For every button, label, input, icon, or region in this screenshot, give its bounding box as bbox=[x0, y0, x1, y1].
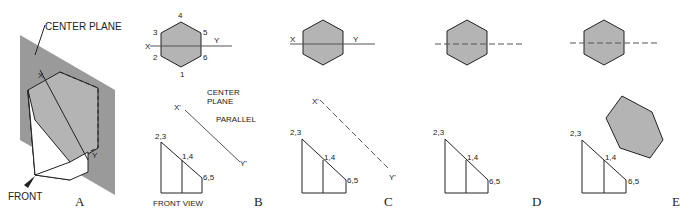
svg-text:FRONT: FRONT bbox=[8, 191, 42, 202]
label-center-plane: CENTER PLANE bbox=[45, 21, 122, 32]
svg-text:2,3: 2,3 bbox=[433, 128, 445, 137]
auxiliary-view-diagram: CENTER PLANE X Y FRONT A X Y 4 3 5 2 6 1… bbox=[0, 0, 691, 223]
svg-text:PLANE: PLANE bbox=[207, 97, 233, 106]
svg-text:6: 6 bbox=[203, 53, 208, 62]
svg-text:Y: Y bbox=[214, 36, 220, 45]
svg-text:X: X bbox=[145, 42, 151, 51]
svg-text:1,4: 1,4 bbox=[605, 153, 617, 162]
svg-text:3: 3 bbox=[153, 28, 158, 37]
svg-text:D: D bbox=[532, 194, 541, 209]
svg-text:1,4: 1,4 bbox=[467, 153, 479, 162]
svg-text:Y': Y' bbox=[240, 159, 247, 168]
svg-text:Y: Y bbox=[353, 35, 359, 44]
svg-text:6,5: 6,5 bbox=[628, 177, 640, 186]
svg-text:1,4: 1,4 bbox=[324, 153, 336, 162]
svg-text:E: E bbox=[672, 194, 680, 209]
svg-text:2: 2 bbox=[153, 53, 158, 62]
svg-text:FRONT VIEW: FRONT VIEW bbox=[153, 199, 204, 208]
svg-text:X: X bbox=[38, 71, 44, 80]
svg-text:2,3: 2,3 bbox=[570, 129, 582, 138]
svg-text:5: 5 bbox=[203, 28, 208, 37]
front-arrow-icon bbox=[24, 176, 35, 188]
svg-text:C: C bbox=[384, 194, 393, 209]
svg-text:2,3: 2,3 bbox=[290, 128, 302, 137]
svg-text:PARALLEL: PARALLEL bbox=[216, 115, 256, 124]
svg-text:X': X' bbox=[312, 97, 319, 106]
svg-text:1: 1 bbox=[180, 70, 185, 79]
panel-c: X Y X' Y' 2,3 1,4 6,5 C bbox=[290, 20, 396, 209]
svg-text:B: B bbox=[254, 194, 263, 209]
svg-text:4: 4 bbox=[178, 11, 183, 20]
svg-text:Y': Y' bbox=[389, 173, 396, 182]
svg-text:X: X bbox=[290, 35, 296, 44]
svg-text:6,5: 6,5 bbox=[203, 173, 215, 182]
panel-b: X Y 4 3 5 2 6 1 X' Y' CENTER PLANE PARAL… bbox=[145, 11, 263, 209]
svg-text:CENTER: CENTER bbox=[207, 88, 240, 97]
svg-text:2,3: 2,3 bbox=[155, 132, 167, 141]
panel-e: 2,3 1,4 6,5 E bbox=[570, 20, 680, 209]
svg-text:1,4: 1,4 bbox=[182, 152, 194, 161]
svg-text:6,5: 6,5 bbox=[489, 177, 501, 186]
svg-text:6,5: 6,5 bbox=[347, 176, 359, 185]
panel-d: 2,3 1,4 6,5 D bbox=[433, 20, 541, 209]
svg-text:X': X' bbox=[174, 103, 181, 112]
panel-a: CENTER PLANE X Y FRONT A bbox=[8, 21, 122, 209]
svg-text:A: A bbox=[75, 194, 85, 209]
svg-text:Y: Y bbox=[92, 151, 98, 160]
